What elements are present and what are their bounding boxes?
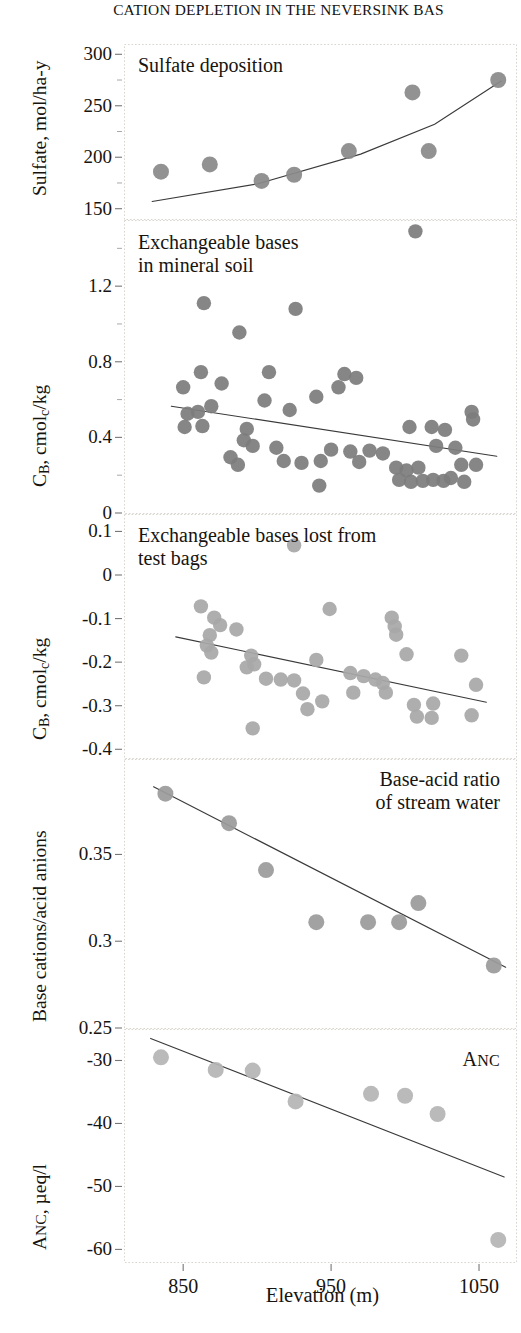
data-point [269,441,283,455]
data-point [424,711,438,725]
data-point [454,648,468,662]
data-point [309,390,323,404]
y-axis-title-base-acid-ratio-stream-water: Base cations/acid anions [30,830,50,1022]
y-tick-label-sulfate-deposition-0: 150 [34,199,112,218]
data-point [469,678,483,692]
data-point [410,709,424,723]
data-point [346,685,360,699]
data-point [324,442,338,456]
data-point [254,173,270,189]
y-tick-label-anc-0: -30 [34,1050,112,1069]
data-point [341,143,357,159]
data-point [214,376,228,390]
panel-caption-exchangeable-bases-test-bags: Exchangeable bases lost from test bags [138,524,468,569]
data-point [448,441,462,455]
data-point [331,380,345,394]
data-point [315,694,329,708]
data-point [197,670,211,684]
data-point [404,84,420,100]
data-point [379,685,393,699]
data-point [352,455,366,469]
y-tick-label-exchangeable-bases-mineral-soil-2: 0.8 [34,352,112,371]
data-point [363,1086,379,1102]
data-point [389,627,403,641]
data-point [411,460,425,474]
data-point [259,672,273,686]
trendline [152,81,501,201]
data-point [490,1232,506,1248]
data-point [288,1093,304,1109]
data-point [469,458,483,472]
data-point [438,423,452,437]
data-point [202,156,218,172]
data-point [410,895,426,911]
y-axis-title-exchangeable-bases-mineral-soil: CB, cmolc/kg [30,385,51,487]
data-point [153,164,169,180]
data-point [245,721,259,735]
data-point [312,478,326,492]
series-base-acid-ratio-stream-water [154,786,506,974]
y-tick-label-exchangeable-bases-mineral-soil-3: 1.2 [34,276,112,295]
y-axis-title-anc: ANC, µeq/l [30,1164,50,1250]
y-tick-label-exchangeable-bases-test-bags-2: -0.1 [34,609,112,628]
data-point [286,167,302,183]
data-point [314,454,328,468]
data-point [153,1049,169,1065]
y-axis-title-exchangeable-bases-test-bags: CB, cmolc/kg [30,638,51,740]
data-point [213,618,227,632]
data-point [300,702,314,716]
data-point [444,471,458,485]
data-point [424,420,438,434]
y-axis-title-sulfate-deposition: Sulfate, mol/ha-y [30,61,50,196]
x-axis-title: Elevation (m) [124,1284,521,1307]
data-point [221,815,237,831]
data-point [343,666,357,680]
data-point [195,419,209,433]
data-point [430,1106,446,1122]
data-point [399,647,413,661]
y-tick-label-exchangeable-bases-test-bags-5: -0.4 [34,739,112,758]
panel-caption-sulfate-deposition: Sulfate deposition [138,54,438,77]
data-point [349,371,363,385]
data-point [282,403,296,417]
data-point [194,599,208,613]
data-point [466,412,480,426]
data-point [287,673,301,687]
data-point [362,443,376,457]
data-point [490,72,506,88]
data-point [322,602,336,616]
trendline [154,787,506,967]
y-tick-label-exchangeable-bases-test-bags-0: 0.1 [34,521,112,540]
data-point [245,439,259,453]
data-point [262,365,276,379]
data-point [421,143,437,159]
data-point [274,672,288,686]
data-point [309,653,323,667]
data-point [308,914,324,930]
panel-caption-base-acid-ratio-stream-water: Base-acid ratio of stream water [190,768,500,813]
data-point [464,708,478,722]
data-point [391,914,407,930]
data-point [296,686,310,700]
y-tick-label-exchangeable-bases-test-bags-1: 0 [34,565,112,584]
data-point [294,456,308,470]
data-point [177,420,191,434]
y-tick-label-exchangeable-bases-mineral-soil-0: 0 [34,503,112,522]
data-point [176,380,190,394]
panel-caption-exchangeable-bases-mineral-soil: Exchangeable bases in mineral soil [138,231,438,276]
data-point [231,458,245,472]
data-point [197,296,211,310]
data-point [402,420,416,434]
data-point [204,399,218,413]
data-point [204,645,218,659]
data-point [397,1088,413,1104]
data-point [257,393,271,407]
data-point [191,405,205,419]
data-point [157,786,173,802]
data-point [277,454,291,468]
data-point [429,439,443,453]
data-point [376,446,390,460]
data-point [258,862,274,878]
figure-multipanel-scatter: 150200250300Sulfate, mol/ha-ySulfate dep… [0,0,521,1333]
data-point [240,660,254,674]
